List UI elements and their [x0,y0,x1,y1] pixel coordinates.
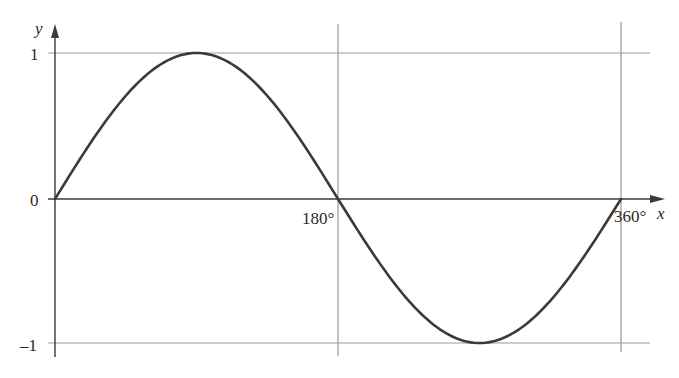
y-axis-label: y [33,19,43,38]
sine-chart: y x 1 0 –1 180° 360° [0,0,679,378]
x-axis-arrow-icon [650,195,665,203]
x-tick-label-180: 180° [302,209,334,228]
x-tick-label-360: 360° [614,207,646,226]
x-axis-label: x [656,204,665,223]
y-tick-label-1: 1 [30,45,39,64]
y-axis-arrow-icon [51,24,59,38]
y-tick-label-0: 0 [30,191,39,210]
tick-labels: y x 1 0 –1 180° 360° [19,19,665,355]
grid-lines [48,22,650,356]
axes [48,24,665,357]
y-tick-label-minus-1: –1 [19,336,37,355]
